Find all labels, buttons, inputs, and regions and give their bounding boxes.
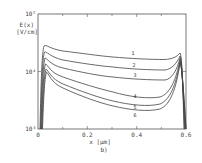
plot-frame xyxy=(38,14,186,129)
x-tick-label-0: 0 xyxy=(36,131,40,138)
x-axis-title: x [µm] xyxy=(89,138,111,146)
curve-6 xyxy=(43,63,187,129)
y-axis-title-line1: E(x) xyxy=(20,21,34,28)
curve-label-2: 2 xyxy=(132,62,135,68)
curve-3 xyxy=(41,58,185,129)
x-tick-label-0.4: 0.4 xyxy=(131,131,142,138)
figure-caption: b) xyxy=(100,146,107,153)
x-tick-label-0.2: 0.2 xyxy=(82,131,93,138)
curve-label-3: 3 xyxy=(133,72,136,78)
curve-5 xyxy=(42,62,186,129)
y-axis-title-line2: [V/cm] xyxy=(16,28,38,35)
curve-label-6: 6 xyxy=(133,112,136,118)
x-tick-label-0.6: 0.6 xyxy=(181,131,192,138)
curves xyxy=(40,46,186,129)
curve-label-5: 5 xyxy=(133,104,136,110)
e-field-chart: 10⁵ 10⁴ 10³ 0 0.2 0.4 0.6 E(x) [V/cm] x … xyxy=(0,0,202,163)
curve-label-4: 4 xyxy=(133,93,136,99)
curve-2 xyxy=(41,52,185,129)
y-tick-label-bottom: 10³ xyxy=(25,125,36,132)
y-tick-label-top: 10⁵ xyxy=(25,10,36,17)
y-tick-label-mid: 10⁴ xyxy=(25,68,36,75)
curve-label-1: 1 xyxy=(131,50,134,56)
